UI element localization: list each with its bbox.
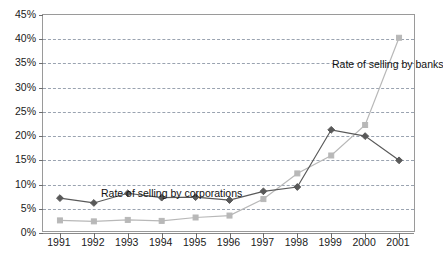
data-series-layer bbox=[43, 15, 416, 233]
y-axis-label-20: 20% bbox=[0, 130, 36, 140]
plot-area: Rate of selling by corporations Rate of … bbox=[42, 14, 415, 232]
data-point-1999 bbox=[328, 126, 335, 133]
data-point-1996 bbox=[227, 213, 232, 218]
data-point-1995 bbox=[193, 215, 198, 220]
y-tick-0 bbox=[39, 233, 43, 234]
data-point-1998 bbox=[295, 171, 300, 176]
y-axis-label-25: 25% bbox=[0, 106, 36, 116]
data-point-1997 bbox=[261, 197, 266, 202]
x-axis-label-2001: 2001 bbox=[375, 236, 421, 248]
y-axis-label-0: 0% bbox=[0, 227, 36, 237]
data-point-1994 bbox=[159, 218, 164, 223]
data-point-1999 bbox=[329, 153, 334, 158]
data-point-1991 bbox=[57, 218, 62, 223]
data-point-1992 bbox=[91, 219, 96, 224]
annotation-banks: Rate of selling by banks bbox=[332, 58, 443, 70]
y-axis-label-15: 15% bbox=[0, 154, 36, 164]
y-axis-label-30: 30% bbox=[0, 82, 36, 92]
gridline-0 bbox=[43, 233, 414, 234]
data-point-1997 bbox=[260, 188, 267, 195]
data-point-1993 bbox=[125, 217, 130, 222]
y-axis-label-45: 45% bbox=[0, 9, 36, 19]
y-axis-label-10: 10% bbox=[0, 179, 36, 189]
data-point-1998 bbox=[294, 184, 301, 191]
data-point-1991 bbox=[57, 195, 64, 202]
annotation-corporations: Rate of selling by corporations bbox=[101, 187, 242, 199]
y-axis-label-5: 5% bbox=[0, 203, 36, 213]
data-point-1992 bbox=[90, 200, 97, 207]
y-axis-label-35: 35% bbox=[0, 57, 36, 67]
data-point-2000 bbox=[363, 122, 368, 127]
data-point-2001 bbox=[397, 35, 402, 40]
y-axis-label-40: 40% bbox=[0, 33, 36, 43]
